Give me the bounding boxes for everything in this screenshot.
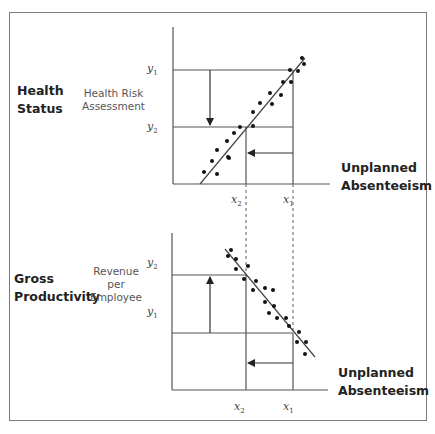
top-panel-lines [173, 27, 330, 184]
diagram-graphics [0, 0, 435, 434]
top-scatter-dots [202, 56, 306, 176]
bottom-panel-lines [172, 233, 328, 390]
